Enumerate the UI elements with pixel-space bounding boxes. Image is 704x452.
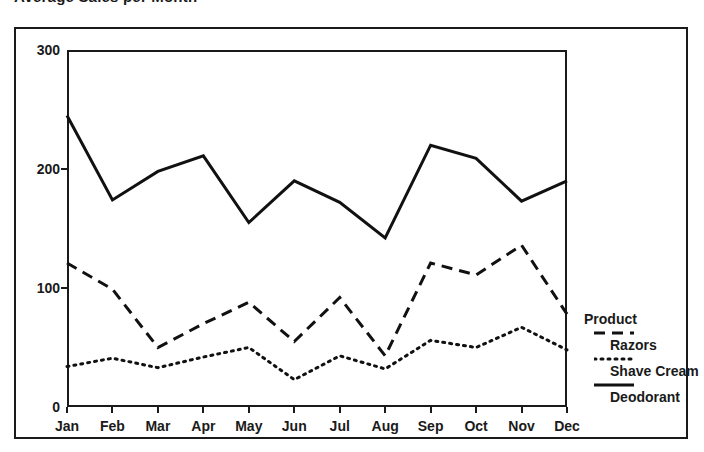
x-tick-label-apr: Apr (191, 418, 215, 434)
chart-title: Average Sales per Month (14, 0, 197, 5)
x-tick-label-jan: Jan (55, 418, 79, 434)
y-tick-label-100: 100 (37, 280, 60, 296)
x-tick-mark-oct (475, 407, 477, 413)
legend-swatch-dotted (594, 356, 634, 362)
x-tick-label-aug: Aug (372, 418, 399, 434)
series-line-shave-cream (67, 327, 567, 379)
x-tick-label-jun: Jun (282, 418, 307, 434)
x-tick-label-oct: Oct (464, 418, 487, 434)
x-tick-mark-aug (384, 407, 386, 413)
x-tick-label-mar: Mar (145, 418, 170, 434)
y-tick-label-0: 0 (52, 399, 60, 415)
x-tick-label-may: May (235, 418, 262, 434)
series-lines (67, 50, 567, 407)
x-tick-mark-sep (430, 407, 432, 413)
x-tick-mark-mar (157, 407, 159, 413)
x-tick-mark-jul (339, 407, 341, 413)
x-tick-mark-jun (293, 407, 295, 413)
legend-title: Product (584, 312, 704, 327)
series-line-deodorant (67, 115, 567, 238)
y-tick-label-200: 200 (37, 161, 60, 177)
legend-entry-shave-cream[interactable]: Shave Cream (584, 356, 704, 379)
legend-swatch-dashed (594, 330, 634, 336)
chart-frame: 0100200300 JanFebMarAprMayJunJulAugSepOc… (14, 27, 688, 439)
chart-legend: Product RazorsShave CreamDeodorant (584, 312, 704, 405)
legend-label: Deodorant (610, 390, 704, 405)
x-tick-label-sep: Sep (418, 418, 444, 434)
x-tick-label-feb: Feb (100, 418, 125, 434)
x-tick-label-jul: Jul (330, 418, 350, 434)
legend-label: Razors (610, 338, 704, 353)
x-tick-mark-may (248, 407, 250, 413)
x-tick-mark-dec (566, 407, 568, 413)
x-tick-label-dec: Dec (554, 418, 580, 434)
legend-entry-razors[interactable]: Razors (584, 330, 704, 353)
x-tick-mark-feb (111, 407, 113, 413)
legend-entry-deodorant[interactable]: Deodorant (584, 382, 704, 405)
y-tick-label-300: 300 (37, 42, 60, 58)
plot-area: 0100200300 JanFebMarAprMayJunJulAugSepOc… (67, 50, 567, 407)
x-tick-mark-nov (521, 407, 523, 413)
legend-swatch-solid (594, 382, 634, 388)
x-tick-label-nov: Nov (508, 418, 534, 434)
x-tick-mark-jan (66, 407, 68, 413)
legend-entries: RazorsShave CreamDeodorant (584, 330, 704, 405)
legend-label: Shave Cream (610, 364, 704, 379)
x-tick-mark-apr (202, 407, 204, 413)
